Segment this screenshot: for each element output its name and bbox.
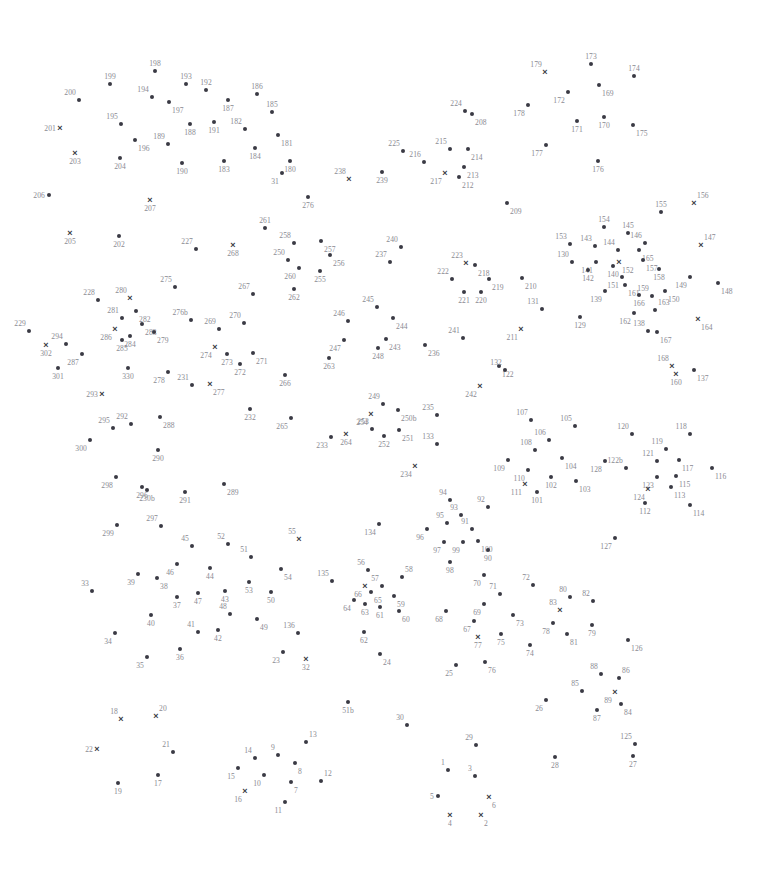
scatter-point-label: 165: [642, 254, 654, 263]
scatter-point-label: 204: [114, 162, 126, 171]
scatter-point-label: 44: [206, 572, 214, 581]
scatter-point-label: 32: [302, 663, 310, 672]
scatter-point-dot: [602, 225, 606, 229]
scatter-point-label: 48: [219, 602, 227, 611]
scatter-point-dot: [247, 580, 251, 584]
scatter-point-label: 51: [240, 545, 248, 554]
scatter-point-dot: [129, 422, 133, 426]
scatter-point-label: 126: [631, 644, 643, 653]
scatter-point-label: 193: [180, 72, 192, 81]
scatter-point-label: 113: [674, 491, 685, 500]
scatter-point-dot: [248, 407, 252, 411]
scatter-point-dot: [292, 241, 296, 245]
scatter-point-dot: [276, 753, 280, 757]
scatter-point-dot: [445, 521, 449, 525]
scatter-point-label: 293: [86, 390, 98, 399]
scatter-point-label: 220: [475, 296, 487, 305]
scatter-point-dot: [180, 161, 184, 165]
scatter-point-dot: [470, 112, 474, 116]
scatter-point-label: 8: [298, 767, 302, 776]
scatter-point-dot: [483, 660, 487, 664]
scatter-point-label: 155: [655, 200, 667, 209]
scatter-point-cross: ×: [99, 391, 106, 398]
scatter-point-label: 4: [448, 819, 452, 828]
scatter-point-dot: [171, 750, 175, 754]
scatter-point-label: 207: [144, 204, 156, 213]
scatter-point-label: 168: [657, 354, 669, 363]
scatter-point-dot: [238, 362, 242, 366]
scatter-point-label: 152: [622, 266, 634, 275]
scatter-point-cross: ×: [557, 607, 564, 614]
scatter-point-label: 46: [166, 568, 174, 577]
scatter-point-dot: [544, 698, 548, 702]
scatter-point-label: 156: [697, 191, 709, 200]
scatter-point-dot: [208, 566, 212, 570]
scatter-point-label: 72: [522, 573, 530, 582]
scatter-point-label: 37: [173, 601, 181, 610]
scatter-point-label: 237: [375, 250, 387, 259]
scatter-point-label: 84: [624, 708, 632, 717]
scatter-point-cross: ×: [669, 363, 676, 370]
scatter-point-label: 151: [607, 281, 619, 290]
scatter-point-label: 211: [507, 333, 518, 342]
scatter-point-label: 196: [138, 144, 150, 153]
scatter-point-label: 83: [549, 598, 557, 607]
scatter-point-label: 67: [463, 625, 471, 634]
scatter-point-dot: [363, 602, 367, 606]
scatter-point-label: 39: [127, 578, 135, 587]
scatter-point-cross: ×: [478, 812, 485, 819]
scatter-point-dot: [88, 438, 92, 442]
scatter-point-dot: [196, 630, 200, 634]
scatter-point-label: 249: [368, 392, 380, 401]
scatter-point-dot: [650, 294, 654, 298]
scatter-point-label: 280: [115, 286, 127, 295]
scatter-point-label: 245: [362, 295, 374, 304]
scatter-point-label: 243: [389, 343, 401, 352]
scatter-point-dot: [289, 416, 293, 420]
scatter-point-dot: [574, 479, 578, 483]
scatter-point-dot: [573, 424, 577, 428]
scatter-point-dot: [535, 490, 539, 494]
scatter-point-label: 261: [259, 216, 271, 225]
scatter-point-dot: [602, 115, 606, 119]
scatter-point-dot: [462, 290, 466, 294]
scatter-point-dot: [293, 761, 297, 765]
scatter-point-dot: [226, 542, 230, 546]
scatter-point-dot: [454, 663, 458, 667]
scatter-point-label: 103: [579, 485, 591, 494]
scatter-point-dot: [27, 329, 31, 333]
scatter-point-dot: [119, 122, 123, 126]
scatter-point-label: 134: [364, 528, 376, 537]
scatter-point-label: 104: [565, 462, 577, 471]
scatter-point-label: 49: [260, 623, 268, 632]
scatter-point-cross: ×: [296, 536, 303, 543]
scatter-point-label: 58: [405, 565, 413, 574]
scatter-point-dot: [64, 342, 68, 346]
scatter-point-label: 54: [284, 573, 292, 582]
scatter-point-label: 199: [104, 72, 116, 81]
scatter-point-label: 136: [283, 621, 295, 630]
scatter-point-dot: [242, 321, 246, 325]
scatter-point-label: 61: [376, 611, 384, 620]
scatter-point-cross: ×: [698, 242, 705, 249]
scatter-point-dot: [457, 175, 461, 179]
scatter-point-label: 171: [571, 125, 583, 134]
scatter-point-cross: ×: [486, 794, 493, 801]
scatter-point-label: 240: [386, 235, 398, 244]
scatter-point-label: 139: [590, 295, 602, 304]
scatter-point-label: 216: [409, 150, 421, 159]
scatter-point-dot: [327, 356, 331, 360]
scatter-point-label: 232: [244, 413, 256, 422]
scatter-point-label: 138: [633, 319, 645, 328]
scatter-point-dot: [173, 285, 177, 289]
scatter-point-dot: [156, 448, 160, 452]
scatter-point-label: 272: [234, 368, 246, 377]
scatter-point-label: 266: [279, 379, 291, 388]
scatter-point-dot: [378, 652, 382, 656]
scatter-point-dot: [111, 426, 115, 430]
scatter-point-dot: [446, 768, 450, 772]
scatter-point-label: 33: [81, 579, 89, 588]
scatter-point-dot: [529, 418, 533, 422]
scatter-point-label: 251: [402, 434, 414, 443]
scatter-point-dot: [637, 248, 641, 252]
